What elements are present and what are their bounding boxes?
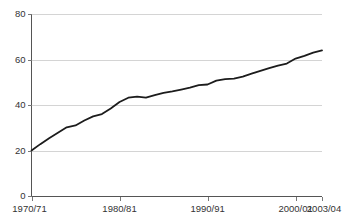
line-chart: 020406080 1970/711980/811990/912000/0120… [0, 0, 344, 223]
x-axis-label-1980-81: 1980/81 [102, 203, 136, 214]
chart-background [0, 0, 344, 223]
x-axis-label-2003-04: 2003/04 [307, 203, 341, 214]
chart-canvas: 020406080 1970/711980/811990/912000/0120… [0, 0, 344, 223]
y-axis-label-20: 20 [15, 145, 26, 156]
y-axis-label-0: 0 [20, 190, 25, 201]
x-axis-label-1990-91: 1990/91 [190, 203, 224, 214]
y-axis-label-80: 80 [15, 8, 26, 19]
y-axis-label-60: 60 [15, 54, 26, 65]
x-axis-label-1970-71: 1970/71 [12, 203, 46, 214]
y-axis-label-40: 40 [15, 99, 26, 110]
